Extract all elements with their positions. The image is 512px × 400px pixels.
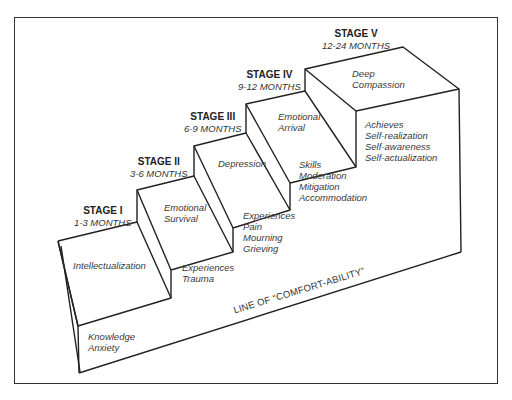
stage-5-riser-label: Achieves Self-realization Self-awareness…: [365, 119, 437, 163]
stage-4-heading: STAGE IV 9-12 MONTHS: [238, 69, 301, 92]
stage-2-riser-label: Experiences Trauma: [182, 262, 234, 284]
stage-2-heading: STAGE II 3-6 MONTHS: [130, 156, 188, 179]
stage-1-top-label: Intellectualization: [73, 260, 146, 271]
stage-1-heading: STAGE I 1-3 MONTHS: [74, 205, 132, 228]
stage-3-heading: STAGE III 6-9 MONTHS: [184, 111, 242, 134]
stage-5-duration: 12-24 MONTHS: [322, 40, 390, 51]
stage-5-top-label: Deep Compassion: [352, 68, 405, 90]
stage-2-top-label: Emotional Survival: [164, 202, 206, 224]
right-edge: [459, 89, 461, 252]
stage-4-top-label: Emotional Arrival: [278, 111, 320, 133]
stage-3-title: STAGE III: [184, 111, 242, 123]
stage-1-duration: 1-3 MONTHS: [74, 217, 132, 228]
stage-3-riser-label: Experiences Pain Mourning Grieving: [243, 210, 295, 254]
stage-5-heading: STAGE V 12-24 MONTHS: [322, 28, 390, 51]
stage-2-title: STAGE II: [130, 156, 188, 168]
stage-3-top-label: Depression: [218, 158, 266, 169]
stage1-top: [58, 222, 171, 326]
staircase-drawing: [0, 0, 512, 400]
stage-4-riser-label: Skills Moderation Mitigation Accommodati…: [299, 159, 367, 203]
stage-5-title: STAGE V: [322, 28, 390, 40]
stage-4-title: STAGE IV: [238, 69, 301, 81]
stage-3-duration: 6-9 MONTHS: [184, 123, 242, 134]
stage-1-riser-label: Knowledge Anxiety: [88, 331, 135, 353]
stage-4-duration: 9-12 MONTHS: [238, 81, 301, 92]
stage-2-duration: 3-6 MONTHS: [130, 168, 188, 179]
stage-1-title: STAGE I: [74, 205, 132, 217]
